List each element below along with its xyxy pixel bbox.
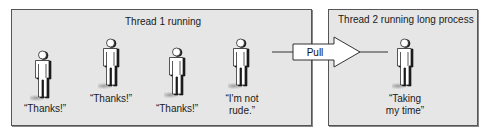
- caption-person-1: “Thanks!”: [24, 103, 66, 115]
- person-icon-5: [388, 39, 413, 90]
- caption-person-2: “Thanks!”: [90, 93, 132, 105]
- person-icon-3: [160, 48, 185, 99]
- caption-line: “Taking: [386, 93, 424, 105]
- pull-arrow-icon: [293, 37, 360, 67]
- person-icon-1: [26, 51, 51, 102]
- caption-person-4: “I'm not rude.”: [225, 93, 258, 117]
- caption-line: “Thanks!”: [156, 103, 198, 115]
- caption-line: “Thanks!”: [24, 103, 66, 115]
- caption-person-3: “Thanks!”: [156, 103, 198, 115]
- pull-label: Pull: [307, 47, 324, 58]
- person-icon-2: [94, 39, 119, 90]
- caption-person-5: “Taking my time”: [386, 93, 424, 117]
- person-icon-4: [224, 39, 249, 90]
- caption-line: “I'm not: [225, 93, 258, 105]
- caption-line: my time”: [386, 105, 424, 117]
- caption-line: “Thanks!”: [90, 93, 132, 105]
- caption-line: rude.”: [225, 105, 258, 117]
